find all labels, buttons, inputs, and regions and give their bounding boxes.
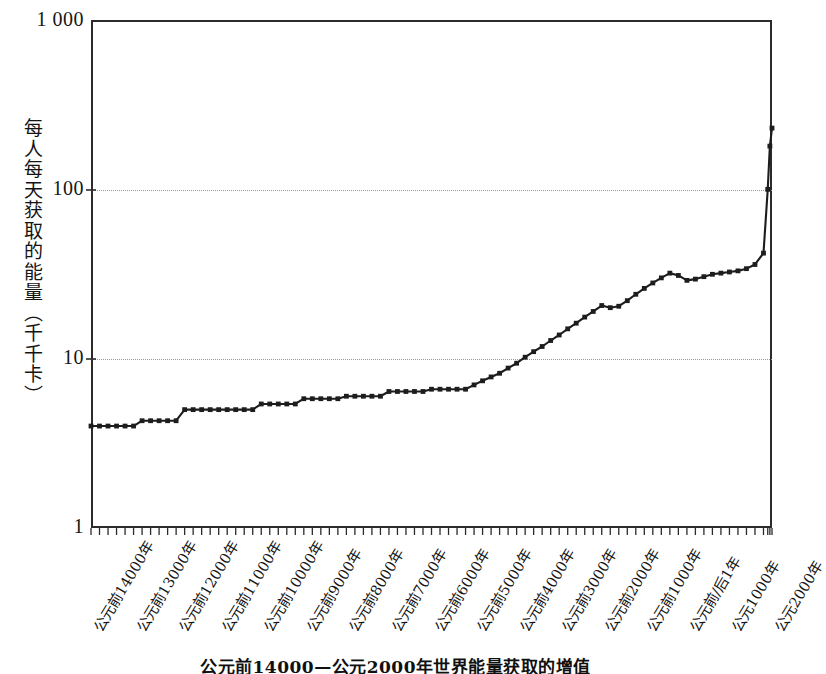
data-point — [770, 126, 775, 131]
y-tick-label-1000: 1 000 — [20, 8, 84, 31]
data-point — [557, 333, 562, 338]
data-point — [404, 389, 409, 394]
data-point — [489, 375, 494, 380]
data-point — [676, 273, 681, 278]
data-series-layer — [91, 20, 772, 528]
data-point — [148, 418, 153, 423]
data-point — [352, 394, 357, 399]
data-point — [582, 315, 587, 320]
data-point — [480, 378, 485, 383]
data-point — [250, 407, 255, 412]
data-point — [710, 272, 715, 277]
data-point — [421, 389, 426, 394]
data-point — [233, 407, 238, 412]
y-axis-ticks — [86, 190, 96, 359]
data-point — [157, 418, 162, 423]
data-point — [616, 304, 621, 309]
data-point — [344, 394, 349, 399]
data-point — [165, 418, 170, 423]
data-point — [650, 281, 655, 286]
data-point — [446, 387, 451, 392]
y-tick-label-10: 10 — [20, 346, 84, 369]
data-point — [259, 402, 264, 407]
data-point — [199, 407, 204, 412]
data-point — [174, 418, 179, 423]
data-point — [114, 424, 119, 429]
data-point — [89, 424, 94, 429]
y-tick-label-100: 100 — [20, 177, 84, 200]
data-point — [387, 389, 392, 394]
data-point — [438, 387, 443, 392]
data-point — [523, 355, 528, 360]
data-line — [91, 128, 772, 426]
data-point — [293, 402, 298, 407]
data-point — [225, 407, 230, 412]
data-point — [659, 275, 664, 280]
data-point — [429, 387, 434, 392]
data-point — [216, 407, 221, 412]
data-point — [719, 271, 724, 276]
data-point — [267, 402, 272, 407]
data-point — [736, 268, 741, 273]
data-point — [412, 389, 417, 394]
data-point — [753, 262, 758, 267]
data-point — [765, 187, 770, 192]
data-point — [361, 394, 366, 399]
data-point — [131, 424, 136, 429]
data-point — [182, 407, 187, 412]
data-point — [497, 371, 502, 376]
data-point — [685, 278, 690, 283]
plot-area — [91, 20, 772, 528]
data-point — [633, 292, 638, 297]
data-point — [693, 277, 698, 282]
data-point — [370, 394, 375, 399]
data-point — [242, 407, 247, 412]
data-point — [335, 396, 340, 401]
data-point — [301, 396, 306, 401]
data-point — [702, 274, 707, 279]
data-point — [514, 361, 519, 366]
data-point — [276, 402, 281, 407]
data-point — [761, 251, 766, 256]
data-point — [667, 271, 672, 276]
data-point — [463, 387, 468, 392]
data-point — [548, 338, 553, 343]
data-point — [123, 424, 128, 429]
data-point — [378, 394, 383, 399]
data-point — [574, 321, 579, 326]
data-point — [140, 418, 145, 423]
data-point — [540, 344, 545, 349]
data-point — [395, 389, 400, 394]
data-point — [318, 396, 323, 401]
data-point — [642, 286, 647, 291]
data-point — [767, 144, 772, 149]
data-point — [565, 326, 570, 331]
data-markers — [89, 126, 775, 429]
data-point — [531, 349, 536, 354]
data-point — [208, 407, 213, 412]
data-point — [625, 298, 630, 303]
data-point — [327, 396, 332, 401]
data-point — [506, 366, 511, 371]
data-point — [191, 407, 196, 412]
data-point — [310, 396, 315, 401]
data-point — [599, 303, 604, 308]
data-point — [744, 266, 749, 271]
figure-caption: 公元前14000—公元2000年世界能量获取的增值 — [0, 653, 791, 674]
data-point — [472, 383, 477, 388]
data-point — [591, 309, 596, 314]
data-point — [608, 305, 613, 310]
data-point — [106, 424, 111, 429]
data-point — [727, 270, 732, 275]
x-axis-tick-labels: 公元前14000年公元前13000年公元前12000年公元前11000年公元前1… — [0, 532, 791, 652]
y-axis-tick-labels: 1 000 100 10 1 — [18, 0, 84, 560]
data-point — [97, 424, 102, 429]
data-point — [455, 387, 460, 392]
data-point — [284, 402, 289, 407]
